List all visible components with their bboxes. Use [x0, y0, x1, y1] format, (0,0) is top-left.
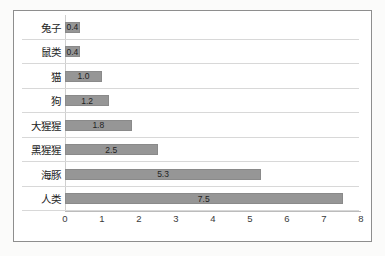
category-label: 大猩猩	[14, 113, 61, 138]
bar-row: 大猩猩1.8	[14, 113, 371, 138]
category-label: 狗	[14, 89, 61, 114]
bar-track: 2.5	[65, 138, 361, 163]
bar-track: 7.5	[65, 187, 361, 212]
bar-track: 0.4	[65, 40, 361, 65]
bar-value-label: 1.0	[78, 72, 90, 81]
x-tick-label: 8	[358, 213, 363, 224]
bar-value-label: 5.3	[157, 170, 169, 179]
x-tick-label: 5	[247, 213, 252, 224]
bar-row: 鼠类0.4	[14, 40, 371, 65]
bar-row: 狗1.2	[14, 89, 371, 114]
x-tick-label: 0	[62, 213, 67, 224]
category-label: 猫	[14, 64, 61, 89]
category-label: 海豚	[14, 162, 61, 187]
bar-track: 0.4	[65, 15, 361, 40]
bar-track: 5.3	[65, 162, 361, 187]
bar[interactable]: 5.3	[65, 169, 261, 180]
bar-value-label: 0.4	[66, 23, 78, 32]
x-tick-label: 2	[136, 213, 141, 224]
x-axis-line	[65, 211, 361, 212]
bar[interactable]: 0.4	[65, 46, 80, 57]
bar-track: 1.0	[65, 64, 361, 89]
x-axis-ticks: 012345678	[65, 213, 361, 233]
bar[interactable]: 1.0	[65, 71, 102, 82]
bar-row: 黑猩猩2.5	[14, 138, 371, 163]
bar-row: 猫1.0	[14, 64, 371, 89]
bar-rows: 兔子0.4鼠类0.4猫1.0狗1.2大猩猩1.8黑猩猩2.5海豚5.3人类7.5	[14, 15, 371, 211]
bar-row: 兔子0.4	[14, 15, 371, 40]
category-label: 黑猩猩	[14, 138, 61, 163]
x-tick-label: 6	[284, 213, 289, 224]
x-tick-label: 3	[173, 213, 178, 224]
bar-value-label: 1.8	[92, 121, 104, 130]
bar-track: 1.2	[65, 89, 361, 114]
bar[interactable]: 2.5	[65, 144, 158, 155]
bar-value-label: 0.4	[66, 48, 78, 57]
bar-value-label: 7.5	[198, 195, 210, 204]
bar-row: 人类7.5	[14, 187, 371, 212]
bar-row: 海豚5.3	[14, 162, 371, 187]
bar[interactable]: 0.4	[65, 22, 80, 33]
bar-value-label: 1.2	[81, 97, 93, 106]
category-label: 鼠类	[14, 40, 61, 65]
bar[interactable]: 1.2	[65, 95, 109, 106]
bar[interactable]: 7.5	[65, 193, 343, 204]
x-tick-label: 1	[99, 213, 104, 224]
category-label: 兔子	[14, 15, 61, 40]
bar-value-label: 2.5	[105, 146, 117, 155]
category-label: 人类	[14, 187, 61, 212]
chart-frame: 兔子0.4鼠类0.4猫1.0狗1.2大猩猩1.8黑猩猩2.5海豚5.3人类7.5…	[13, 10, 372, 242]
bar-track: 1.8	[65, 113, 361, 138]
x-tick-label: 7	[321, 213, 326, 224]
plot-area: 兔子0.4鼠类0.4猫1.0狗1.2大猩猩1.8黑猩猩2.5海豚5.3人类7.5…	[14, 11, 371, 241]
x-tick-label: 4	[210, 213, 215, 224]
bar[interactable]: 1.8	[65, 120, 132, 131]
